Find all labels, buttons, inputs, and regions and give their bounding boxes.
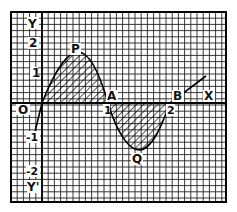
point-p-label: P xyxy=(71,42,80,56)
y-tick-1: 1 xyxy=(32,66,40,80)
x-tick-2: 2 xyxy=(167,104,175,117)
y-neg-axis-label: Y' xyxy=(26,180,39,194)
point-q-label: Q xyxy=(132,152,142,166)
point-b-label: B xyxy=(173,89,182,103)
point-a-label: A xyxy=(107,89,117,103)
origin-label: O xyxy=(18,103,28,117)
x-tick-1: 1 xyxy=(104,104,112,117)
graph-figure: Y 2 1 O -1 -2 Y' P A 1 Q B 2 X xyxy=(0,0,237,212)
y-tick-2: 2 xyxy=(29,36,37,50)
y-axis-label: Y xyxy=(27,17,37,31)
y-tick-neg2: -2 xyxy=(26,165,38,178)
y-tick-neg1: -1 xyxy=(26,131,38,144)
x-axis-label: X xyxy=(204,89,214,103)
